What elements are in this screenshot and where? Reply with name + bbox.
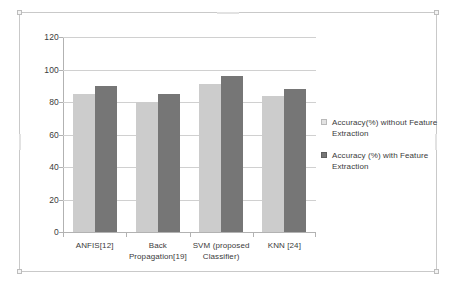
- bar-group: [262, 37, 306, 232]
- y-tick-100: [59, 70, 63, 71]
- bar-group: [136, 37, 180, 232]
- y-tick-0: [59, 232, 63, 233]
- y-tick-40: [59, 167, 63, 168]
- x-tick-label-line: Classifier): [184, 251, 259, 262]
- y-tick-60: [59, 135, 63, 136]
- bar[interactable]: [136, 102, 158, 232]
- x-tick: [253, 233, 254, 237]
- x-axis-labels: ANFIS[12]BackPropagation[19]SVM (propose…: [63, 240, 316, 270]
- bar[interactable]: [284, 89, 306, 232]
- y-tick-20: [59, 200, 63, 201]
- x-axis-ticks: [63, 233, 316, 237]
- plot-area: [63, 37, 316, 232]
- y-tick-120: [59, 37, 63, 38]
- y-tick-label-80: 80: [29, 98, 59, 107]
- y-tick-label-40: 40: [29, 163, 59, 172]
- bar[interactable]: [221, 76, 243, 232]
- bar[interactable]: [95, 86, 117, 232]
- y-tick-label-0: 0: [29, 228, 59, 237]
- legend-swatch-icon: [321, 119, 327, 125]
- y-axis-labels: 020406080100120: [25, 37, 59, 232]
- legend-label: Accuracy (%) with Feature Extraction: [332, 151, 428, 171]
- legend-entry[interactable]: Accuracy (%) with Feature Extraction: [321, 150, 439, 172]
- x-tick: [63, 233, 64, 237]
- y-tick-label-60: 60: [29, 130, 59, 139]
- bar[interactable]: [199, 84, 221, 232]
- y-tick-80: [59, 102, 63, 103]
- y-tick-label-120: 120: [29, 33, 59, 42]
- x-tick: [126, 233, 127, 237]
- y-tick-label-20: 20: [29, 195, 59, 204]
- figure-frame: 020406080100120 ANFIS[12]BackPropagation…: [19, 12, 437, 272]
- bar-chart: 020406080100120 ANFIS[12]BackPropagation…: [20, 13, 436, 271]
- legend-entry[interactable]: Accuracy(%) without Feature Extraction: [321, 117, 439, 139]
- bar[interactable]: [158, 94, 180, 232]
- bar[interactable]: [73, 94, 95, 232]
- bar-group: [73, 37, 117, 232]
- y-tick-label-100: 100: [29, 65, 59, 74]
- bar[interactable]: [262, 96, 284, 233]
- chart-legend: Accuracy(%) without Feature ExtractionAc…: [321, 117, 439, 183]
- bar-group: [199, 37, 243, 232]
- x-tick: [190, 233, 191, 237]
- x-tick: [315, 233, 316, 237]
- x-tick-label: KNN [24]: [247, 240, 322, 251]
- legend-label: Accuracy(%) without Feature Extraction: [332, 118, 437, 138]
- x-tick-label-line: KNN [24]: [247, 240, 322, 251]
- legend-swatch-icon: [321, 152, 327, 158]
